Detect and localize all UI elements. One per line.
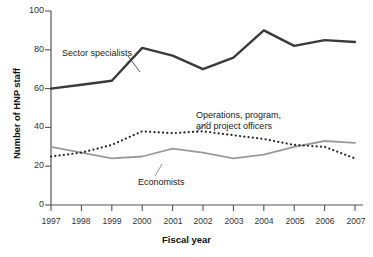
series-line-economists [51,141,355,158]
line-chart: Number of HNP staff 100 80 60 40 20 0 19… [0,0,373,257]
leader-economists [155,164,162,176]
series-line-sector-specialists [51,30,355,88]
y-tick-marks [45,11,51,205]
x-tick-marks [51,205,355,211]
plot-area [0,0,373,257]
series-line-operations [51,131,355,158]
